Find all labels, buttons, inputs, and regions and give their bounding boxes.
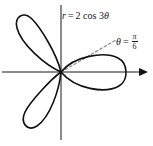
pi-over-six-fraction: π6 [132, 33, 138, 51]
fraction-numerator-pi: π [132, 33, 138, 42]
equation-equals-sign: = [68, 10, 74, 21]
polar-rose-figure [0, 0, 153, 146]
equation-coefficient: 2 [76, 10, 81, 21]
fraction-denominator-six: 6 [132, 42, 138, 51]
ray-equals-sign: = [123, 37, 129, 47]
ray-angle-label: θ=π6 [116, 33, 138, 51]
equation-cos-function: cos [83, 10, 96, 21]
ray-theta-symbol: θ [116, 37, 121, 47]
equation-label: r=2 cos 3θ [62, 11, 109, 21]
equation-r-symbol: r [62, 10, 66, 21]
equation-theta-symbol: θ [104, 10, 109, 21]
